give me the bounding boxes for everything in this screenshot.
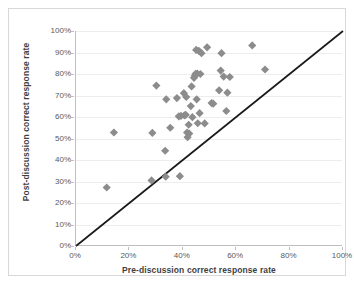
y-tick-label: 100% [25,27,71,35]
scatter-point [223,89,231,97]
x-tick-label: 20% [108,251,148,260]
data-layer [76,31,343,246]
x-tick-label: 0% [55,251,95,260]
scatter-point [166,124,174,132]
y-tick-mark [71,53,74,54]
y-tick-mark [71,225,74,226]
y-tick-mark [71,182,74,183]
y-tick-label: 30% [25,178,71,186]
scatter-point [103,183,111,191]
y-tick-mark [71,117,74,118]
scatter-point [110,128,118,136]
y-tick-label: 80% [25,70,71,78]
scatter-point [162,95,170,103]
y-tick-label: 70% [25,92,71,100]
x-tick-label: 60% [215,251,255,260]
y-tick-label: 20% [25,199,71,207]
scatter-point [201,119,209,127]
scatter-point [194,119,202,127]
x-axis-ticks: 0%20%40%60%80%100% [75,247,342,263]
x-tick-mark [289,247,290,250]
scatter-point [162,173,170,181]
scatter-point [203,43,211,51]
scatter-point [217,49,225,57]
x-tick-label: 40% [162,251,202,260]
x-tick-label: 80% [269,251,309,260]
scatter-point [193,95,201,103]
scatter-point [185,121,193,129]
scatter-point [248,41,256,49]
x-tick-mark [128,247,129,250]
y-tick-label: 90% [25,49,71,57]
y-tick-label: 50% [25,135,71,143]
scatter-point [173,94,181,102]
y-tick-mark [71,31,74,32]
scatter-point [188,113,196,121]
x-tick-mark [75,247,76,250]
scatter-point [222,107,230,115]
y-tick-label: 60% [25,113,71,121]
scatter-markers [103,41,270,191]
y-tick-mark [71,96,74,97]
scatter-point [226,73,234,81]
scatter-point [187,102,195,110]
x-tick-mark [235,247,236,250]
x-tick-mark [182,247,183,250]
scatter-point [152,82,160,90]
plot-area [75,31,342,246]
y-tick-mark [71,203,74,204]
x-axis-title: Pre-discussion correct response rate [49,265,349,275]
y-tick-mark [71,160,74,161]
scatter-point [188,82,196,90]
y-tick-mark [71,246,74,247]
y-tick-label: 40% [25,156,71,164]
y-tick-mark [71,74,74,75]
y-tick-mark [71,139,74,140]
scatter-point [215,86,223,94]
scatter-point [261,65,269,73]
y-tick-label: 0% [25,242,71,250]
chart-figure: 0%10%20%30%40%50%60%70%80%90%100% 0%20%4… [0,0,354,288]
scatter-point [196,109,204,117]
scatter-point [161,147,169,155]
x-tick-label: 100% [322,251,354,260]
x-tick-mark [342,247,343,250]
y-axis-title: Post-discussion correct response rate [21,42,31,202]
scatter-point [148,129,156,137]
y-tick-label: 10% [25,221,71,229]
chart-frame: 0%10%20%30%40%50%60%70%80%90%100% 0%20%4… [8,8,346,276]
scatter-point [176,172,184,180]
identity-line [76,31,343,246]
